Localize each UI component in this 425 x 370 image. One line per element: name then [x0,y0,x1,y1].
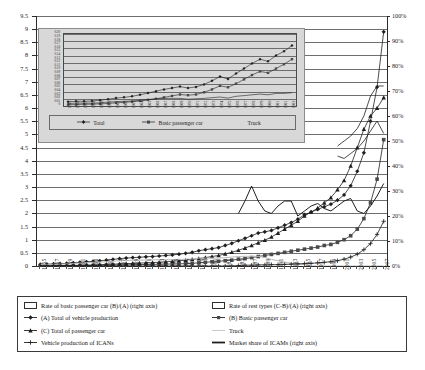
legend-label: (B) Basic passenger car [229,314,288,321]
x-axis-tick [363,266,364,269]
inset-data-point-marker [187,94,189,96]
inset-x-tick-label: 1974 [221,101,225,108]
x-axis-tick [323,266,324,269]
data-point-marker [217,245,221,249]
inset-legend-item-total: Total [50,119,132,126]
y-axis-tick-label: 1 [2,237,28,243]
legend-line-swatch-icon [212,339,225,346]
legend-item-total-passenger-car[interactable]: (C) Total of passenger car [24,324,212,337]
x-axis-tick [231,266,232,269]
y-axis-tick-label: 3.5 [2,171,28,177]
inset-legend-marker-icon [142,119,155,126]
data-point-marker [269,228,273,232]
legend-line-swatch-icon [24,339,37,346]
inset-data-point-marker [147,92,150,95]
inset-data-point-marker [251,62,254,65]
y-axis-tick-label: 4 [2,158,28,164]
y-axis-tick-label: 0 [2,263,28,269]
inset-x-tick-label: 1976 [237,101,241,108]
inset-data-point-marker [259,58,262,61]
data-point-marker [236,239,240,243]
inset-x-tick-label: 1977 [245,101,249,108]
x-axis-tick [59,266,60,269]
legend-item-rate-basic-passenger-car[interactable]: Rate of basic passenger car (B)/(A) (rig… [24,299,212,312]
data-point-marker [256,231,260,235]
legend-item-ican-market-share[interactable]: Market share of ICAMs (right axis) [212,337,400,350]
y-axis-tick-label: 6.5 [2,92,28,98]
inset-data-point-marker [187,87,190,90]
inset-data-point-marker [211,88,213,90]
y-axis-tick-label: 6 [2,105,28,111]
x-axis-tick [112,266,113,269]
x-axis-tick [125,266,126,269]
inset-data-point-marker [171,95,173,97]
inset-x-tick-label: 1964 [141,101,145,108]
inset-y-tick-label: 0 [40,103,60,106]
y2-axis-tick-label: 100% [392,13,406,19]
data-point-marker [190,250,194,254]
legend-item-truck[interactable]: Truck [212,324,400,337]
data-point-marker [322,244,326,248]
inset-data-point-marker [259,70,261,72]
y-axis-tick-label: 9.5 [2,13,28,19]
y-axis-tick-label: 9 [2,26,28,32]
inset-legend-label: Basic passenger car [158,120,202,126]
y2-axis-tick-label: 90% [392,38,403,44]
x-axis-tick [336,266,337,269]
inset-x-tick-label: 1975 [229,101,233,108]
legend-label: (C) Total of passenger car [41,327,105,334]
legend-line-swatch-icon [24,314,37,321]
y-axis-tick-label: 8 [2,52,28,58]
data-point-marker [349,234,353,238]
inset-legend-marker-icon [77,119,90,126]
inset-x-tick-label: 1983 [293,101,297,108]
legend-item-ican-vehicle-production[interactable]: Vehicle production of ICANs [24,337,212,350]
y-axis-tick-label: 1.5 [2,224,28,230]
data-point-marker [250,234,254,238]
legend-item-rate-rest-types[interactable]: Rate of rest types (C-B)/(A) (right axis… [212,299,400,312]
data-point-marker [329,202,333,206]
legend-line-swatch-icon [212,314,225,321]
inset-legend-label: Total [93,120,104,126]
data-point-marker [362,217,366,221]
data-point-marker [362,151,366,155]
legend-label: Rate of basic passenger car (B)/(A) (rig… [41,302,157,309]
inset-legend-item-basic-passenger-car: Basic passenger car [132,119,214,126]
inset-x-tick-label: 1973 [213,101,217,108]
data-point-marker [164,253,168,257]
y-axis-tick-label: 5 [2,131,28,137]
y-axis-tick-label: 8.5 [2,39,28,45]
legend-box-swatch-icon [212,302,225,309]
inset-x-tick-label: 1959 [101,101,105,108]
inset-x-tick-label: 1969 [181,101,185,108]
inset-x-tick-label: 1961 [117,101,121,108]
inset-data-point-marker [163,88,166,91]
data-point-marker [382,138,386,142]
y2-axis-tick-label: 50% [392,138,403,144]
x-axis-tick [138,266,139,269]
inset-data-point-marker [211,79,214,82]
data-point-marker [183,251,187,255]
inset-legend-item-truck: Truck [213,120,295,126]
legend-label: Rate of rest types (C-B)/(A) (right axis… [229,302,327,309]
main-chart: 00.511.522.533.544.555.566.577.588.599.5… [0,0,425,292]
data-point-marker [381,95,385,99]
inset-x-tick-label: 1958 [93,101,97,108]
inset-x-tick-label: 1972 [205,101,209,108]
inset-data-point-marker [155,90,158,93]
inset-legend-label: Truck [248,120,261,126]
data-point-marker [342,178,346,182]
legend-item-basic-passenger-car[interactable]: (B) Basic passenger car [212,312,400,325]
legend-item-total-vehicle-production[interactable]: (A) Total of vehicle production [24,312,212,325]
inset-x-tick-label: 1970 [189,101,193,108]
inset-data-point-marker [219,75,222,78]
y-axis-tick-label: 0.5 [2,250,28,256]
inset-data-point-marker [179,85,182,88]
legend-label: (A) Total of vehicle production [41,314,118,321]
inset-x-tick-label: 1980 [269,101,273,108]
inset-series-line [68,46,292,102]
inset-data-point-marker [179,93,181,95]
data-point-marker [203,248,207,252]
data-point-marker [276,226,280,230]
y-axis-tick-label: 3 [2,184,28,190]
